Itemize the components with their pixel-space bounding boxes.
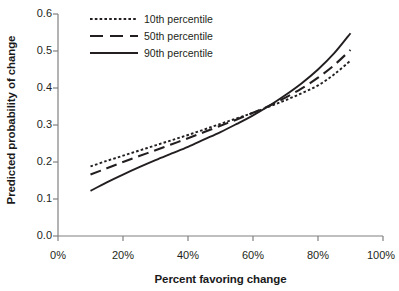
series-line-90th-percentile (91, 33, 351, 191)
x-axis-ticks (58, 236, 383, 241)
y-axis-ticks (53, 14, 58, 236)
series-line-50th-percentile (91, 50, 351, 175)
plot-area (0, 0, 399, 291)
series-line-10th-percentile (91, 61, 351, 167)
chart-figure: Predicted probability of change 0.6 0.5 … (0, 0, 399, 291)
data-curves (91, 33, 351, 191)
